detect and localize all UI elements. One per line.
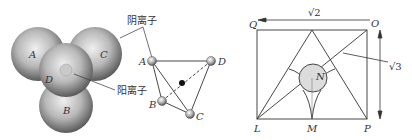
center-label-n: N [315,71,326,82]
cation-center [60,64,72,76]
anion-label: 阴离子 [127,14,157,26]
height-label: √3 [389,61,402,72]
tetrahedron-center [179,80,185,86]
corner-label-p: P [363,123,371,134]
vertex-label-c: C [196,111,204,122]
corner-label-l: L [253,123,261,134]
diagram-canvas: A B C D 阴离子 阳离子 A B C D [0,0,412,140]
corner-label-q: Q [249,19,257,30]
corner-label-m: M [306,123,318,134]
tetrahedron-figure [152,61,211,114]
vertex-d [207,57,216,66]
vertex-label-b: B [148,99,156,110]
cation-label: 阳离子 [117,84,147,96]
corner-label-o: O [371,18,379,29]
sphere-label-d: D [44,74,53,85]
width-label: √2 [308,7,321,18]
sphere-label-c: C [100,49,108,60]
sphere-label-b: B [62,105,70,116]
vertex-c [186,110,195,119]
sphere-packing-figure: A B C D 阴离子 阳离子 [11,14,157,133]
vertex-a [148,57,157,66]
anion-leader-line [120,27,152,58]
sphere-label-a: A [28,49,36,60]
vertex-label-d: D [217,56,226,67]
vertex-label-a: A [138,56,146,67]
vertex-b [158,97,167,106]
